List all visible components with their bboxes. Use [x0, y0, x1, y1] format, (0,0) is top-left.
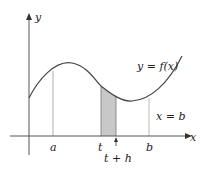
shaded-strip [101, 86, 116, 136]
tick-t-plus-h: t + h [104, 152, 132, 165]
x-axis-label: x [190, 131, 197, 144]
area-function-diagram: y x y = f(x) x = b a t b t + h [0, 0, 203, 171]
curve-label: y = f(x) [136, 60, 178, 73]
tick-a: a [50, 141, 57, 154]
tick-b: b [146, 141, 153, 154]
tick-t: t [98, 141, 103, 154]
boundary-label: x = b [156, 110, 185, 123]
y-axis-label: y [34, 11, 42, 24]
y-axis-arrow-icon [26, 13, 32, 20]
